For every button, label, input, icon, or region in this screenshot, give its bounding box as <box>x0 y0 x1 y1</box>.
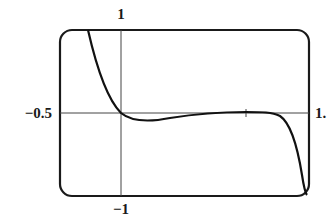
plot: 1 −1 −0.5 1. <box>0 0 331 214</box>
x-axis-left-label: −0.5 <box>25 105 52 121</box>
x-axis-right-label: 1. <box>315 105 327 121</box>
y-axis-bottom-label: −1 <box>113 201 129 214</box>
y-axis-top-label: 1 <box>117 6 125 22</box>
